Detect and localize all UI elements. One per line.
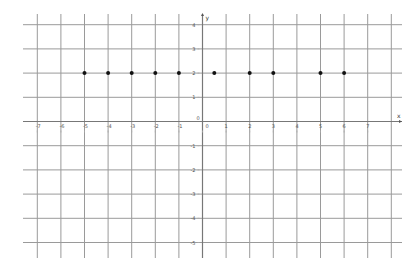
y-tick-label: -3 <box>191 191 196 197</box>
data-point <box>130 71 134 75</box>
data-point <box>319 71 323 75</box>
data-point <box>106 71 110 75</box>
y-axis-arrow-icon <box>201 13 204 16</box>
y-tick-label: 3 <box>192 46 195 52</box>
x-axis-arrow-icon <box>399 120 402 123</box>
x-tick-label: 0 <box>206 123 209 129</box>
y-tick-label: -2 <box>191 167 196 173</box>
x-tick-label: 6 <box>343 123 346 129</box>
x-tick-label: -5 <box>83 123 88 129</box>
x-tick-label: 7 <box>366 123 369 129</box>
y-tick-label: 4 <box>192 22 195 28</box>
y-tick-label: -5 <box>191 240 196 246</box>
x-tick-label: 3 <box>272 123 275 129</box>
data-point <box>177 71 181 75</box>
x-axis-label: x <box>397 112 401 119</box>
y-tick-label: 1 <box>192 94 195 100</box>
x-tick-label: -1 <box>177 123 182 129</box>
y-axis-label: y <box>206 14 210 22</box>
data-point <box>153 71 157 75</box>
coordinate-plane: xy-7-6-5-4-3-2-101234567-5-4-3-2-101234 <box>0 0 412 267</box>
y-tick-label: 0 <box>197 115 200 121</box>
x-tick-label: 2 <box>248 123 251 129</box>
x-tick-label: 4 <box>295 123 298 129</box>
x-tick-label: -3 <box>130 123 135 129</box>
data-point <box>212 71 216 75</box>
data-point <box>271 71 275 75</box>
data-point <box>248 71 252 75</box>
x-tick-label: -2 <box>154 123 159 129</box>
y-tick-label: -1 <box>191 143 196 149</box>
y-tick-label: -4 <box>191 215 196 221</box>
y-tick-label: 2 <box>192 70 195 76</box>
x-tick-label: -4 <box>107 123 112 129</box>
x-tick-label: 1 <box>225 123 228 129</box>
x-tick-label: -7 <box>36 123 41 129</box>
data-point <box>342 71 346 75</box>
x-tick-label: -6 <box>59 123 64 129</box>
data-point <box>83 71 87 75</box>
x-tick-label: 5 <box>319 123 322 129</box>
